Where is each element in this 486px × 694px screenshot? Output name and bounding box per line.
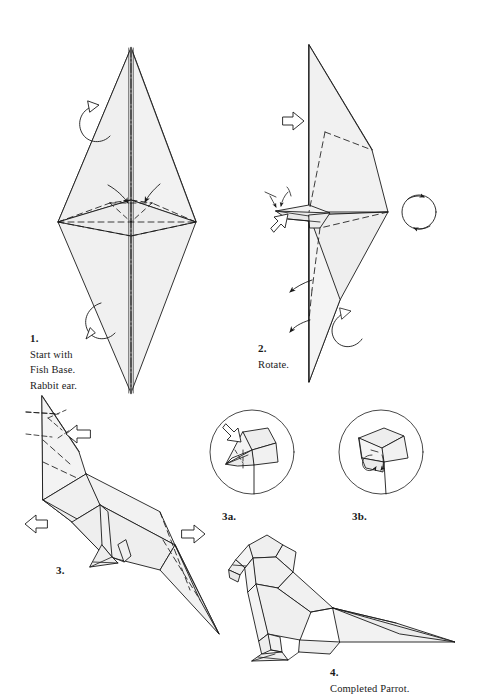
caption-step-2: 2. Rotate. (258, 326, 289, 372)
caption-step-3a: 3a. (222, 494, 236, 525)
instruction-sheet: 1. Start with Fish Base. Rabbit ear. 2. … (0, 0, 486, 694)
caption-step-3: 3. (56, 548, 65, 579)
figure-step-4-completed-parrot (229, 535, 455, 661)
figure-step-1 (58, 48, 196, 393)
caption-step-3-number: 3. (56, 564, 65, 576)
caption-step-2-text: Rotate. (258, 359, 289, 370)
figure-step-3b-inset (339, 410, 423, 494)
figure-step-3 (25, 396, 219, 634)
figure-step-2 (265, 45, 436, 382)
caption-step-2-number: 2. (258, 342, 267, 354)
caption-step-1: 1. Start with Fish Base. Rabbit ear. (30, 316, 77, 393)
caption-step-1-text: Start with Fish Base. Rabbit ear. (30, 349, 77, 390)
figure-step-3a-inset (210, 410, 294, 494)
caption-step-3a-number: 3a. (222, 510, 236, 522)
caption-step-4: 4. Completed Parrot. (330, 650, 410, 694)
caption-step-4-number: 4. (330, 666, 339, 678)
caption-step-3b-number: 3b. (352, 510, 367, 522)
caption-step-4-text: Completed Parrot. (330, 683, 410, 694)
caption-step-3b: 3b. (352, 494, 367, 525)
caption-step-1-number: 1. (30, 332, 39, 344)
